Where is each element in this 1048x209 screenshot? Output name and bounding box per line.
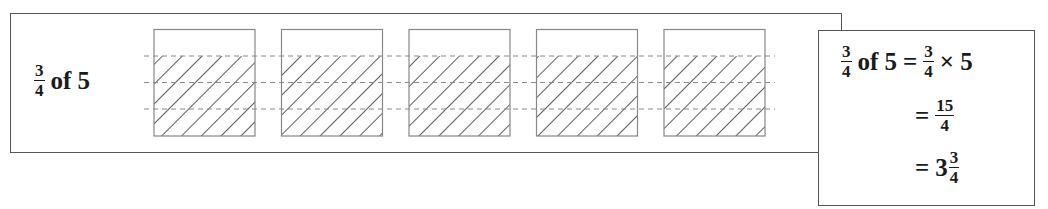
calc-line-2: = 15 4	[915, 97, 954, 134]
denominator: 4	[924, 62, 933, 80]
calculation-box: 3 4 of 5 = 3 4 × 5 = 15 4 = 3 3 4	[818, 30, 1035, 206]
denominator: 4	[941, 116, 950, 134]
numerator: 3	[923, 43, 934, 62]
denominator: 4	[950, 168, 959, 186]
equals-sign: =	[915, 102, 929, 130]
expression-label: 3 4 of 5	[34, 62, 90, 99]
text: × 5	[940, 48, 973, 76]
calc-line-3: = 3 3 4	[915, 149, 959, 186]
text: of 5	[858, 48, 898, 76]
label-text: of 5	[51, 67, 91, 95]
fraction: 3 4	[34, 62, 45, 99]
numerator: 3	[949, 149, 960, 168]
numerator: 3	[841, 43, 852, 62]
fraction: 3 4	[923, 43, 934, 80]
numerator: 15	[935, 97, 954, 116]
mixed-number: 3 3 4	[935, 149, 959, 186]
denominator: 4	[842, 62, 851, 80]
equals-sign: =	[915, 154, 929, 182]
numerator: 3	[34, 62, 45, 81]
fraction: 3 4	[949, 149, 960, 186]
calc-line-1: 3 4 of 5 = 3 4 × 5	[841, 43, 973, 80]
fraction: 15 4	[935, 97, 954, 134]
whole-part: 3	[935, 154, 948, 182]
denominator: 4	[35, 81, 44, 99]
fraction: 3 4	[841, 43, 852, 80]
diagram-frame	[10, 13, 842, 153]
equals-sign: =	[903, 48, 917, 76]
